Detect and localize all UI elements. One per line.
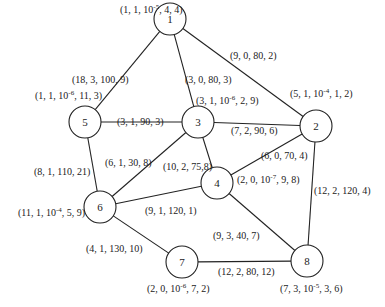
- node-8: 8: [291, 245, 323, 277]
- edge-label-2-8: (12, 2, 120, 4): [314, 185, 371, 197]
- node-attr-label-4: (2, 0, 10-7, 9, 8): [237, 173, 300, 186]
- edge-label-3-4: (10, 2, 75,8): [163, 161, 212, 173]
- edge-4-8: [229, 193, 295, 250]
- node-3: 3: [182, 106, 214, 138]
- node-id-label: 8: [304, 255, 310, 267]
- node-6: 6: [84, 191, 116, 223]
- node-attr-label-6: (11, 1, 10-4, 5, 9): [18, 206, 85, 219]
- node-id-label: 7: [179, 256, 185, 268]
- node-attr-label-2: (5, 1, 10-4, 1, 2): [290, 87, 353, 100]
- edge-1-5: [95, 31, 160, 109]
- edge-6-4: [116, 186, 202, 204]
- edges-layer: [88, 28, 315, 261]
- node-attr-label-8: (7, 3, 10-5, 3, 6): [280, 282, 343, 295]
- edge-label-1-5: (18, 3, 100, 9): [72, 74, 129, 86]
- edge-label-4-8: (9, 3, 40, 7): [213, 230, 260, 242]
- edge-7-8: [198, 261, 291, 262]
- node-id-label: 4: [214, 177, 220, 189]
- edge-label-5-3: (3, 1, 90, 3): [117, 116, 164, 128]
- node-id-label: 5: [82, 116, 88, 128]
- edge-label-7-8: (12, 2, 80, 12): [218, 266, 275, 278]
- edge-label-6-7: (4, 1, 130, 10): [86, 243, 143, 255]
- edge-label-4-2: (6, 0, 70, 4): [261, 150, 308, 162]
- nodes-layer: 12345678: [69, 3, 332, 278]
- edge-label-1-2: (9, 0, 80, 2): [230, 50, 277, 62]
- node-attr-label-1: (1, 1, 10-5, 4, 4): [120, 3, 183, 16]
- edge-label-1-3: (3, 0, 80, 3): [185, 74, 232, 86]
- node-5: 5: [69, 106, 101, 138]
- edge-label-6-3: (6, 1, 30, 8): [105, 157, 152, 169]
- node-7: 7: [166, 246, 198, 278]
- node-id-label: 6: [97, 201, 103, 213]
- edge-1-3: [174, 34, 194, 106]
- node-attr-label-7: (2, 0, 10-6, 7, 2): [147, 282, 210, 295]
- node-id-label: 3: [195, 116, 201, 128]
- edge-label-6-4: (9, 1, 120, 1): [145, 205, 197, 217]
- edge-5-6: [88, 138, 97, 191]
- network-graph: 12345678 (9, 0, 80, 2)(3, 0, 80, 3)(18, …: [0, 0, 385, 307]
- edge-label-3-2: (7, 2, 90, 6): [231, 125, 278, 137]
- node-id-label: 2: [313, 120, 319, 132]
- node-attr-label-3: (3, 1, 10-6, 2, 9): [196, 94, 259, 107]
- node-2: 2: [300, 110, 332, 142]
- edge-label-5-6: (8, 1, 110, 21): [34, 166, 90, 178]
- node-attr-label-5: (1, 1, 10-6, 11, 3): [35, 89, 102, 102]
